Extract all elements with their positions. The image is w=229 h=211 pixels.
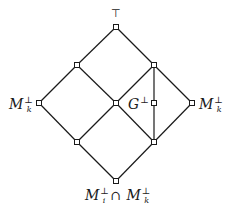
bottom-node-label: M⊥i ∩ M⊥k [85,187,149,203]
edge-right-lr [154,103,192,142]
bottom-label-cap: ∩ [110,188,121,203]
node-g [152,101,157,106]
bottom-label-sub1: i [103,196,106,205]
node-lower-left [75,140,80,145]
left-label-sup: ⊥ [24,95,32,105]
node-top [114,25,119,30]
right-node-label: M⊥k [199,96,222,112]
edge-ul-center [77,65,116,103]
edge-top-ul [77,27,116,65]
bottom-label-m1: M [85,187,99,203]
node-upper-right [152,63,157,68]
edge-center-ll [77,103,116,142]
node-right [190,101,195,106]
edge-left-ll [39,103,77,142]
bottom-label-sup1: ⊥ [100,186,108,196]
lattice-diagram [0,0,229,211]
bottom-label-m2: M [126,187,140,203]
edge-ll-bottom [77,142,116,181]
bottom-label-sub2: k [144,196,149,205]
node-bottom [114,179,119,184]
left-node-label: M⊥k [9,96,32,112]
left-label-main: M [9,96,23,112]
right-label-main: M [199,96,213,112]
right-label-sup: ⊥ [214,95,222,105]
node-lower-right [152,140,157,145]
node-upper-left [75,63,80,68]
g-label-sup: ⊥ [140,95,148,105]
right-label-sub: k [217,105,222,114]
node-left [37,101,42,106]
bottom-label-sup2: ⊥ [142,186,150,196]
top-label: ⊤ [111,8,121,19]
edge-lr-bottom [116,142,154,181]
edge-top-ur [116,27,154,65]
g-node-label: G⊥ [128,96,149,112]
edge-ur-right [154,65,192,103]
nodes [37,25,195,184]
g-label-main: G [128,96,139,112]
node-center [114,101,119,106]
edge-ul-left [39,65,77,103]
left-label-sub: k [27,105,32,114]
